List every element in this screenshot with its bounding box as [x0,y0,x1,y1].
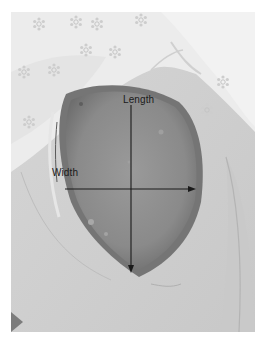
width-label: Width [52,168,78,178]
photo-scene [11,12,255,332]
length-label: Length [123,95,154,105]
wound-photograph [11,12,255,332]
